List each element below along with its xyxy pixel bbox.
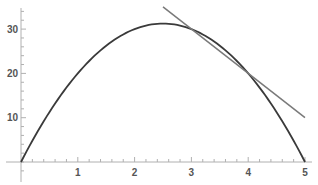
x-tick-label: 3 (189, 167, 195, 178)
curve-line (21, 24, 305, 162)
x-tick-label: 1 (75, 167, 81, 178)
y-tick-label: 20 (7, 68, 19, 79)
x-axis: 12345 (6, 157, 312, 178)
secant-line (163, 7, 305, 118)
y-tick-label: 30 (7, 24, 19, 35)
x-tick-label: 2 (132, 167, 138, 178)
x-tick-label: 5 (302, 167, 308, 178)
y-tick-label: 10 (7, 112, 19, 123)
x-tick-label: 4 (245, 167, 251, 178)
plot-series (21, 7, 305, 162)
y-axis: 102030 (7, 8, 26, 182)
chart: 102030 12345 (0, 0, 318, 185)
